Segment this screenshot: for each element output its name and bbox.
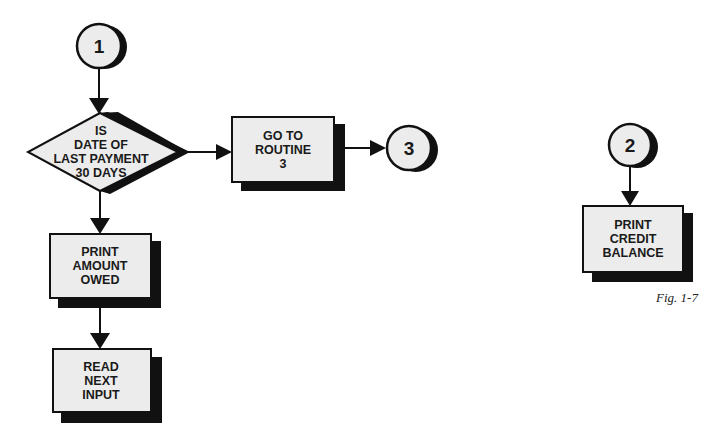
connector-1-label: 1 [94, 36, 105, 57]
print-amount-line-3: OWED [81, 273, 120, 287]
read-next-line-3: INPUT [82, 388, 120, 402]
print-credit-line-3: BALANCE [602, 246, 663, 260]
arrow-goto-to-connector3 [345, 140, 386, 156]
decision-line-3: LAST PAYMENT [53, 152, 149, 166]
decision-line-1: IS [95, 124, 107, 138]
print-amount-line-1: PRINT [81, 245, 119, 259]
goto-line-1: GO TO [263, 129, 303, 143]
read-next-line-1: READ [83, 360, 118, 374]
read-next-box: READ NEXT INPUT [53, 349, 162, 423]
connector-3-label: 3 [404, 138, 415, 159]
print-credit-line-2: CREDIT [610, 232, 657, 246]
print-credit-box: PRINT CREDIT BALANCE [583, 206, 693, 282]
connector-3: 3 [387, 126, 438, 172]
goto-line-3: 3 [280, 157, 287, 171]
arrow-print-amount-to-read-next [90, 308, 110, 349]
arrow-decision-to-print-amount [90, 191, 110, 234]
arrow-connector1-to-decision [89, 69, 109, 114]
arrow-connector2-to-print-credit [621, 166, 639, 206]
goto-routine-box: GO TO ROUTINE 3 [232, 117, 345, 191]
print-amount-line-2: AMOUNT [73, 259, 128, 273]
print-credit-line-1: PRINT [614, 218, 652, 232]
decision-line-2: DATE OF [74, 138, 128, 152]
goto-line-2: ROUTINE [255, 143, 311, 157]
decision-line-4: 30 DAYS [76, 166, 127, 180]
flowchart-canvas: 1 IS DATE OF LAST PAYMENT 30 DAYS GO TO … [0, 0, 713, 432]
connector-2: 2 [609, 124, 658, 168]
read-next-line-2: NEXT [84, 374, 118, 388]
figure-caption: Fig. 1-7 [655, 290, 698, 305]
connector-1: 1 [77, 24, 127, 69]
arrow-decision-to-goto [188, 144, 232, 160]
print-amount-box: PRINT AMOUNT OWED [50, 234, 161, 308]
connector-2-label: 2 [625, 135, 636, 156]
decision-diamond: IS DATE OF LAST PAYMENT 30 DAYS [28, 112, 190, 194]
